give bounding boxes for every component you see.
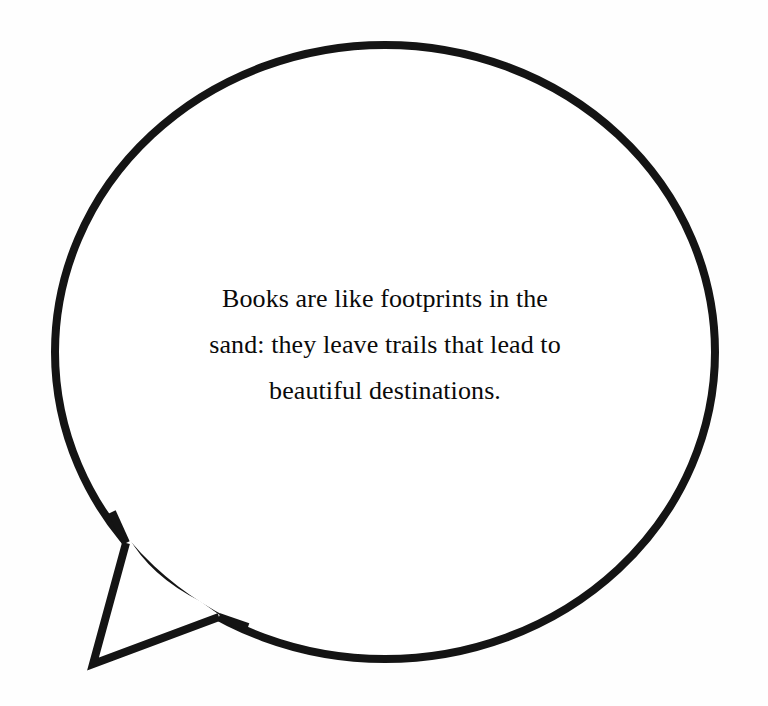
- image-canvas: Books are like footprints in the sand: t…: [0, 0, 768, 706]
- quote-line-1: Books are like footprints in the: [150, 276, 620, 322]
- quote-text-block: Books are like footprints in the sand: t…: [150, 276, 620, 414]
- quote-line-3: beautiful destinations.: [150, 368, 620, 414]
- quote-line-2: sand: they leave trails that lead to: [150, 322, 620, 368]
